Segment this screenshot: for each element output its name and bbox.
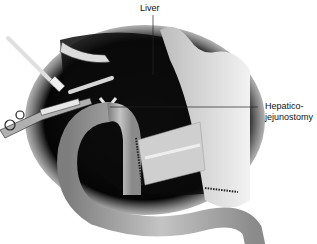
drain-tube bbox=[8, 38, 55, 85]
label-hepaticojejunostomy-line1: Hepatico- bbox=[265, 101, 304, 111]
label-hepaticojejunostomy-line2: jejunostomy bbox=[265, 112, 313, 122]
surgical-illustration bbox=[0, 0, 317, 244]
label-liver: Liver bbox=[140, 3, 160, 13]
